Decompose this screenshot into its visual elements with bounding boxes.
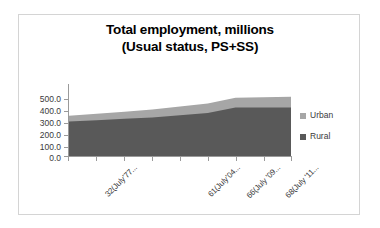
- x-tick-mark-5: [208, 157, 209, 161]
- y-tick-label-500: 500.0: [27, 95, 61, 104]
- legend-label-urban: Urban: [310, 111, 333, 120]
- legend-item-rural: Rural: [300, 132, 358, 141]
- legend-swatch-rural-icon: [300, 134, 306, 140]
- x-tick-mark-8: [291, 157, 292, 161]
- x-tick-mark-1: [96, 157, 97, 161]
- y-tick-label-0: 0.0: [27, 154, 61, 163]
- y-tick-label-400: 400.0: [27, 107, 61, 116]
- x-tick-mark-3: [152, 157, 153, 161]
- legend-label-rural: Rural: [310, 132, 330, 141]
- x-tick-mark-4: [180, 157, 181, 161]
- chart-title-line-2: (Usual status, PS+SS): [19, 38, 361, 55]
- chart-title-line-1: Total employment, millions: [106, 22, 274, 37]
- x-tick-mark-7: [264, 157, 265, 161]
- y-tick-label-100: 100.0: [27, 143, 61, 152]
- plot-area-wrapper: [69, 84, 291, 156]
- stacked-area-svg: [69, 84, 291, 156]
- chart-card: Total employment, millions (Usual status…: [18, 14, 360, 215]
- plot-area: [69, 84, 291, 156]
- x-tick-mark-6: [236, 157, 237, 161]
- legend-item-urban: Urban: [300, 111, 358, 120]
- x-tick-label-1: 61(July'04...: [206, 163, 242, 199]
- x-tick-label-2: 66(July '09...: [245, 163, 282, 200]
- chart-title: Total employment, millions (Usual status…: [19, 21, 361, 55]
- legend-swatch-urban-icon: [300, 113, 306, 119]
- x-tick-mark-0: [68, 157, 69, 161]
- x-tick-label-3: 68(July '11...: [284, 163, 321, 200]
- x-tick-mark-2: [124, 157, 125, 161]
- chart-legend: Urban Rural: [300, 111, 358, 153]
- y-tick-label-300: 300.0: [27, 119, 61, 128]
- y-tick-label-200: 200.0: [27, 131, 61, 140]
- screenshot-root: Total employment, millions (Usual status…: [0, 0, 380, 228]
- x-tick-label-0: 32(July'77...: [103, 163, 139, 199]
